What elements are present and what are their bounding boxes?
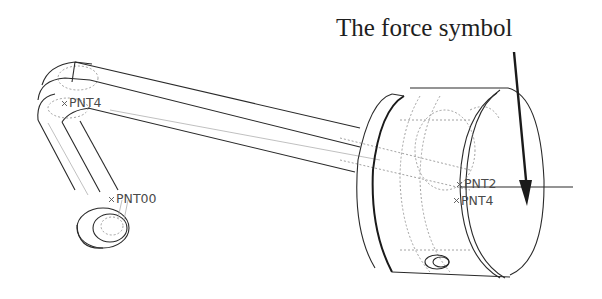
force-arrow	[514, 52, 532, 206]
crank-pin-bushing	[77, 200, 129, 248]
point-label-pnt00: PNT00	[116, 193, 156, 206]
point-label-pnt4-piston: PNT4	[461, 195, 493, 208]
mechanism-wireframe	[0, 0, 602, 299]
crank-head	[38, 62, 98, 122]
force-symbol-caption: The force symbol	[336, 14, 512, 42]
point-label-pnt4-crank: PNT4	[69, 97, 101, 110]
crank-link	[38, 120, 118, 195]
piston	[357, 88, 544, 278]
point-label-pnt2: PNT2	[464, 178, 496, 191]
cad-drawing-canvas: The force symbol PNT4 PNT00 PNT2 PNT4	[0, 0, 602, 299]
connecting-rod	[75, 62, 470, 190]
